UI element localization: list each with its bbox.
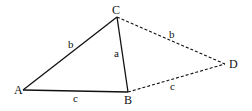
vertex-label-D: D: [229, 57, 238, 71]
segment-AC: [23, 17, 117, 90]
triangle-diagram: C A B D b a c b c: [0, 0, 252, 111]
vertex-label-C: C: [112, 3, 120, 17]
side-label-CB: a: [114, 47, 119, 59]
side-label-CD: b: [169, 28, 175, 40]
side-label-BD: c: [170, 80, 175, 92]
vertex-label-A: A: [14, 83, 23, 97]
side-label-AB: c: [73, 92, 78, 104]
segment-CD-dashed: [117, 17, 225, 64]
side-label-AC: b: [68, 38, 74, 50]
segment-BD-dashed: [128, 64, 225, 92]
vertex-label-B: B: [124, 93, 132, 107]
